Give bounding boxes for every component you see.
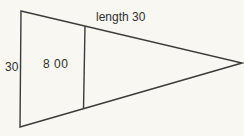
divider-line [84,26,86,109]
inner-region-value-label: 8 00 [43,58,68,70]
diagram-canvas: length 30 30 8 00 [0,0,244,136]
top-edge-length-label: length 30 [96,11,145,23]
left-edge-height-label: 30 [5,61,18,73]
